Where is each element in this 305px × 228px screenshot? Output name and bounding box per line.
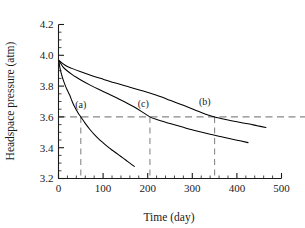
headspace-pressure-vs-time-chart: 0100200300400500 3.23.43.63.84.04.2 (a)(…	[0, 0, 305, 228]
y-tick-label: 4.0	[40, 49, 54, 61]
x-tick-label: 500	[273, 182, 290, 194]
x-tick-label: 400	[229, 182, 246, 194]
y-tick-label: 3.4	[40, 142, 54, 154]
x-tick-label: 200	[139, 182, 156, 194]
y-tick-label: 3.8	[40, 80, 54, 92]
y-tick-label: 3.2	[40, 172, 54, 184]
curve-label-b: (b)	[199, 96, 211, 108]
curve-label-a: (a)	[75, 99, 86, 111]
curve-label-c: (c)	[138, 98, 149, 110]
chart-figure: 0100200300400500 3.23.43.63.84.04.2 (a)(…	[0, 0, 305, 228]
x-tick-label: 0	[56, 182, 62, 194]
y-tick-label: 4.2	[40, 18, 54, 30]
x-axis-title: Time (day)	[143, 211, 194, 224]
y-tick-label: 3.6	[40, 111, 54, 123]
x-tick-label: 300	[184, 182, 201, 194]
x-tick-label: 100	[95, 182, 112, 194]
y-axis-title: Headspace pressure (atm)	[4, 41, 17, 160]
